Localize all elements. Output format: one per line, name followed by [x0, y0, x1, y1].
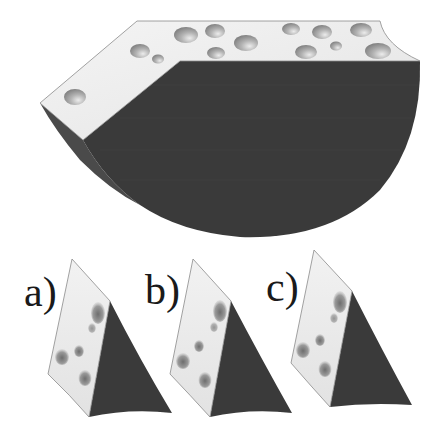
- hole: [176, 353, 190, 369]
- panel-label-b: b): [145, 269, 180, 311]
- hole: [365, 43, 391, 59]
- main-cheese-piece: [40, 21, 420, 237]
- hole: [330, 313, 338, 323]
- hole: [64, 89, 86, 105]
- hole: [282, 23, 300, 35]
- panel-label-a: a): [24, 271, 57, 313]
- hole: [333, 291, 347, 313]
- hole: [205, 24, 225, 38]
- hole: [194, 340, 204, 352]
- hole: [88, 323, 96, 333]
- hole: [152, 55, 164, 64]
- hole: [74, 345, 84, 357]
- hole: [319, 361, 332, 377]
- hole: [91, 302, 105, 324]
- hole: [130, 44, 150, 58]
- hole: [234, 35, 258, 51]
- hole: [312, 25, 332, 39]
- figure-canvas: a) b) c): [0, 0, 444, 443]
- hole: [213, 300, 227, 322]
- hole: [79, 370, 92, 386]
- hole: [296, 342, 310, 358]
- hole: [55, 349, 69, 365]
- wedge-c: [291, 250, 412, 407]
- hole: [295, 45, 317, 59]
- hole: [350, 23, 372, 37]
- hole: [330, 42, 342, 51]
- hole: [210, 322, 218, 332]
- hole: [174, 27, 198, 43]
- cheese-illustration: [0, 0, 444, 443]
- panel-label-c: c): [266, 266, 299, 308]
- hole: [315, 334, 325, 346]
- hole: [199, 372, 212, 388]
- hole: [207, 47, 225, 59]
